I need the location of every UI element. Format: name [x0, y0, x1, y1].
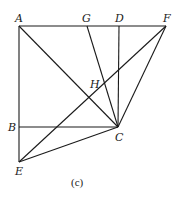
segment-EC [19, 127, 118, 162]
label-G: G [82, 12, 91, 25]
label-D: D [114, 12, 124, 25]
label-A: A [14, 12, 23, 25]
geometry-figure: A G D F H B C E (c) [0, 0, 176, 201]
label-H: H [89, 78, 100, 91]
segment-DC [118, 26, 119, 127]
figure-caption: (c) [71, 176, 84, 189]
label-C: C [115, 131, 124, 144]
segment-FC [118, 26, 166, 127]
segments [19, 26, 166, 162]
point-labels: A G D F H B C E [7, 12, 171, 178]
segment-AC [19, 26, 118, 127]
label-F: F [162, 12, 171, 25]
label-E: E [14, 165, 23, 178]
label-B: B [7, 121, 16, 134]
segment-EF [19, 26, 166, 162]
